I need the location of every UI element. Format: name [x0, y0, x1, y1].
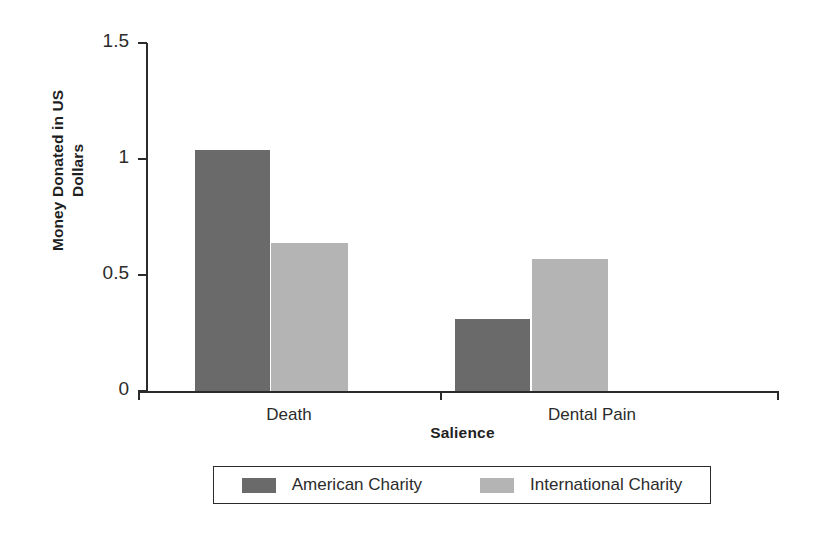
- y-tick-label-1: 1: [118, 146, 129, 168]
- y-axis-title: Money Donated in US Dollars: [48, 40, 89, 300]
- bar-chart: Money Donated in US Dollars 1.5 1 0.5 0 …: [0, 0, 819, 533]
- x-tick-mid: [440, 391, 442, 400]
- y-tick-label-1.5: 1.5: [103, 30, 129, 52]
- y-axis-title-line-1: Money Donated in US: [48, 40, 68, 300]
- bar-american-charity-death: [195, 150, 270, 391]
- x-axis-line: [138, 391, 779, 393]
- x-group-label-dental-pain: Dental Pain: [548, 405, 636, 425]
- bar-international-charity-death: [271, 243, 348, 392]
- legend-swatch-american-charity: [242, 478, 276, 493]
- legend-item-international-charity: International Charity: [480, 475, 682, 495]
- y-tick-1.5: 1.5: [138, 42, 147, 44]
- y-axis-title-line-2: Dollars: [68, 40, 88, 300]
- plot-area: 1.5 1 0.5 0 Death Dental Pain: [146, 43, 779, 391]
- y-tick-0.5: 0.5: [138, 274, 147, 276]
- legend-swatch-international-charity: [480, 478, 514, 493]
- x-axis-title: Salience: [146, 424, 779, 442]
- x-tick-left: [138, 391, 140, 400]
- y-axis-line: [146, 43, 148, 391]
- bar-american-charity-dental-pain: [455, 319, 530, 391]
- x-tick-right: [777, 391, 779, 400]
- legend-item-american-charity: American Charity: [242, 475, 422, 495]
- bar-international-charity-dental-pain: [532, 259, 608, 391]
- y-tick-1: 1: [138, 158, 147, 160]
- x-group-label-death: Death: [266, 405, 311, 425]
- legend-label-international-charity: International Charity: [530, 475, 682, 495]
- legend-label-american-charity: American Charity: [292, 475, 422, 495]
- y-tick-label-0: 0: [118, 378, 129, 400]
- legend: American Charity International Charity: [213, 466, 711, 504]
- y-tick-label-0.5: 0.5: [103, 262, 129, 284]
